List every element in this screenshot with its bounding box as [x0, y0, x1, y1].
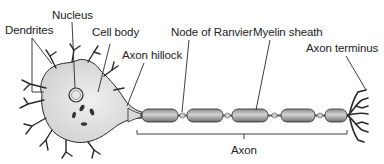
label-nucleus: Nucleus [52, 9, 93, 21]
neuron-diagram: Dendrites Nucleus Cell body Axon hillock… [0, 0, 384, 164]
label-myelin-sheath: Myelin sheath [253, 26, 323, 38]
nucleus-shape [69, 88, 83, 102]
label-axon-hillock: Axon hillock [122, 49, 182, 61]
neuron-illustration [0, 0, 384, 164]
label-node-of-ranvier: Node of Ranvier [171, 26, 253, 38]
axon-bracket [137, 130, 347, 139]
label-cell-body: Cell body [92, 26, 139, 38]
label-axon: Axon [231, 144, 257, 156]
axon-terminus-shape [348, 90, 368, 142]
label-dendrites: Dendrites [5, 24, 53, 36]
cell-body-shape [20, 44, 142, 158]
label-axon-terminus: Axon terminus [306, 42, 378, 54]
